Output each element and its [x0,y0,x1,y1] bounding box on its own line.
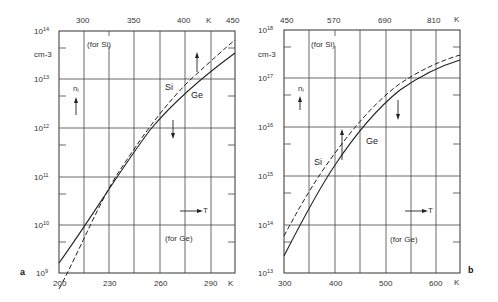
chart-a-top-tick-400: 400 [177,17,190,25]
chart-a-panel-label: a [20,268,25,277]
chart-b-top-tick-690: 690 [378,17,391,25]
chart-b-bottom-tick-300: 300 [278,280,291,288]
chart-a-bottom-tick-290: 290 [204,280,217,288]
chart-a-ge-label: Ge [191,91,203,100]
chart-a-ge-curve [59,53,235,263]
chart-b-ge-curve [284,60,460,256]
chart-b-y-tick-16: 1016 [258,124,273,132]
chart-b-ni-arrow [298,96,302,110]
chart-a-t-label: T [203,207,208,215]
chart-b-hgrid [284,78,460,225]
chart-a-for-ge-label: (for Ge) [165,235,193,243]
chart-b-bottom-tick-400: 400 [329,280,342,288]
chart-a-bottom-tick-230: 230 [103,280,116,288]
chart-b-t-arrow [405,209,428,213]
chart-b-top-tick-450: 450 [280,17,293,25]
chart-b-for-ge-label: (for Ge) [390,236,418,244]
chart-b-for-si-label: (for Si) [311,41,335,49]
chart-b-bottom-unit: K [454,279,459,287]
chart-a-si-label: Si [165,83,173,92]
chart-a-bottom-tick-260: 260 [154,280,167,288]
chart-a-top-unit: K [206,17,211,25]
chart-a-arrow-up [195,52,199,72]
chart-b-y-tick-13: 1013 [258,270,273,278]
chart-b [284,30,460,273]
chart-b-frame [284,30,460,273]
chart-a-t-arrow [180,209,203,213]
chart-a [59,31,235,289]
chart-b-panel-label: b [468,266,474,275]
chart-a-top-tick-300: 300 [76,17,89,25]
chart-b-y-tick-18: 1018 [258,27,273,35]
chart-b-top-tick-570: 570 [327,17,340,25]
chart-a-y-tick-12: 1012 [34,125,49,133]
chart-a-top-tick-350: 350 [127,17,140,25]
chart-a-for-si-label: (for Si) [87,41,111,49]
chart-a-frame [59,31,235,273]
chart-b-y-tick-14: 1014 [258,222,273,230]
chart-a-ni-arrow [74,97,78,115]
chart-b-bottom-tick-500: 500 [379,280,392,288]
chart-b-si-label: Si [314,158,322,167]
chart-a-bottom-unit: K [228,280,233,288]
chart-b-bottom-tick-600: 600 [429,280,442,288]
chart-b-y-tick-15: 1015 [258,173,273,181]
chart-a-y-tick-11: 1011 [34,174,49,182]
chart-b-arrow-up [340,129,344,160]
chart-a-si-curve [59,40,235,289]
chart-b-ni-label: ni [298,85,304,93]
chart-b-top-tick-810: 810 [427,17,440,25]
figure [0,0,498,302]
chart-a-y-unit: cm-3 [34,51,52,59]
chart-b-t-label: T [428,207,433,215]
chart-a-hgrid [59,79,235,225]
chart-a-y-tick-10: 1010 [34,222,49,230]
chart-b-arrow-down [396,100,400,120]
chart-b-y-unit: cm-3 [258,51,276,59]
chart-b-top-unit: K [454,16,459,24]
chart-a-bottom-tick-200: 200 [53,280,66,288]
chart-a-y-tick-14: 1014 [34,28,49,36]
chart-b-ge-label: Ge [366,137,378,146]
chart-a-top-tick-450: 450 [226,17,239,25]
chart-a-arrow-down [171,120,175,139]
chart-a-y-tick-9: 109 [36,270,48,278]
chart-a-ni-label: ni [73,85,79,93]
chart-b-y-tick-17: 1017 [258,75,273,83]
chart-a-y-tick-13: 1013 [34,76,49,84]
